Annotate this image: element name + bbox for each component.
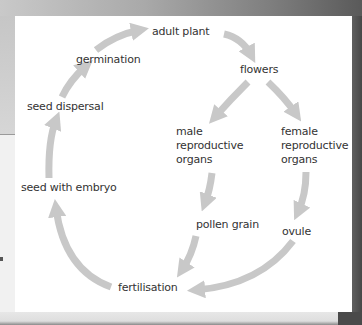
node-male-reproductive-organs: male reproductive organs: [176, 125, 243, 167]
node-adult-plant: adult plant: [152, 25, 209, 39]
male-line-2: reproductive: [176, 139, 243, 153]
female-line-1: female: [281, 125, 348, 139]
arrow-seed-embryo-to-seed-dispersal: [49, 120, 56, 178]
node-female-reproductive-organs: female reproductive organs: [281, 125, 348, 167]
node-fertilisation: fertilisation: [118, 281, 178, 295]
male-line-3: organs: [176, 153, 243, 167]
node-germination: germination: [76, 53, 140, 67]
node-seed-dispersal: seed dispersal: [27, 100, 104, 114]
female-line-3: organs: [281, 153, 348, 167]
arrow-germination-to-adult-plant: [96, 30, 140, 50]
arrow-female-to-ovule: [298, 172, 306, 212]
node-flowers: flowers: [240, 63, 278, 77]
arrow-flowers-to-female: [268, 82, 296, 114]
node-seed-with-embryo: seed with embryo: [21, 181, 117, 195]
male-line-1: male: [176, 125, 243, 139]
arrow-adult-plant-to-flowers: [224, 34, 251, 55]
female-line-2: reproductive: [281, 139, 348, 153]
node-ovule: ovule: [282, 225, 311, 239]
arrow-flowers-to-male: [215, 82, 248, 117]
arrow-pollen-to-fertilisation: [182, 236, 196, 270]
arrow-fertilisation-to-seed-embryo: [56, 208, 111, 287]
arrow-ovule-to-fertilisation: [196, 241, 293, 290]
arrow-male-to-pollen: [205, 173, 212, 203]
arrow-seed-dispersal-to-germination: [62, 66, 86, 97]
node-pollen-grain: pollen grain: [196, 218, 259, 232]
